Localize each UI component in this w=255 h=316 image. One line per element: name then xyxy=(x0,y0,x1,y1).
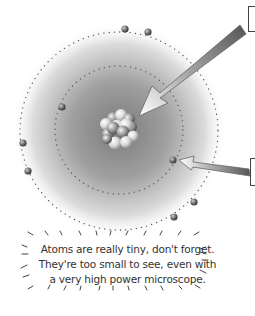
caption-line: They're too small to see, even with xyxy=(0,257,255,272)
caption: Atoms are really tiny, don't forget. The… xyxy=(0,242,255,287)
caption-line: a very high power microscope. xyxy=(0,272,255,287)
electron-label-bracket xyxy=(250,158,255,186)
nucleus-label-bracket xyxy=(248,6,255,32)
caption-line: Atoms are really tiny, don't forget. xyxy=(0,242,255,257)
